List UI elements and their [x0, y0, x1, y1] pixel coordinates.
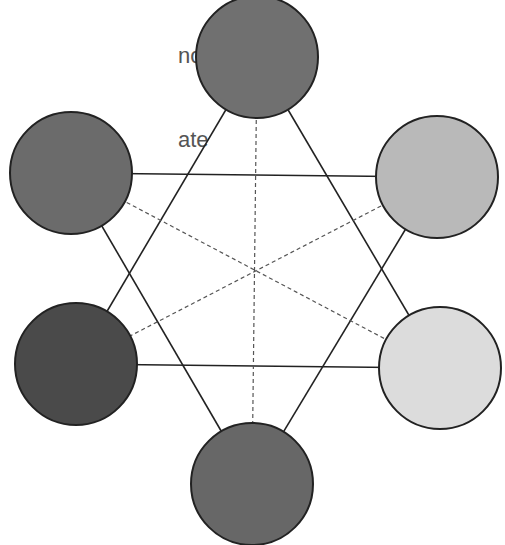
- node-upper-left: [10, 112, 132, 234]
- node-top: [196, 0, 318, 118]
- node-lower-right: [379, 307, 501, 429]
- nodes: [10, 0, 501, 545]
- edges: [71, 57, 440, 484]
- node-lower-left: [15, 303, 137, 425]
- network-diagram: [0, 0, 505, 545]
- node-bottom: [191, 423, 313, 545]
- node-upper-right: [376, 116, 498, 238]
